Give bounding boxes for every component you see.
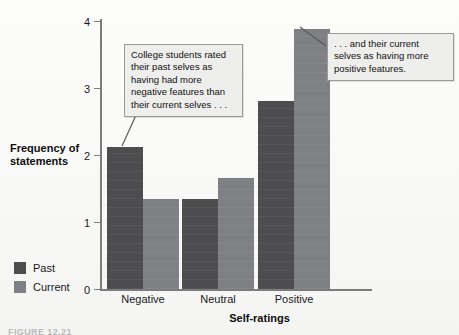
- y-tick-0: 0: [94, 289, 101, 290]
- y-tick-label-0: 0: [84, 284, 90, 296]
- y-tick-label-1: 1: [84, 217, 90, 229]
- y-tick-label-3: 3: [84, 83, 90, 95]
- bar-negative-past: [107, 147, 143, 289]
- x-axis-title: Self-ratings: [0, 312, 459, 324]
- bar-neutral-past: [182, 199, 218, 289]
- y-tick-1: 1: [94, 222, 101, 223]
- x-category-label-positive: Positive: [246, 293, 342, 305]
- bar-positive-current: [294, 29, 330, 289]
- bar-neutral-current: [218, 178, 254, 289]
- y-axis-title: Frequency of statements: [10, 142, 96, 168]
- y-axis-title-line-2: statements: [10, 155, 96, 168]
- legend-item-past: Past: [14, 258, 70, 277]
- y-tick-3: 3: [94, 88, 101, 89]
- callout-past-selves: College students rated their past selves…: [124, 44, 243, 117]
- legend-swatch-current: [14, 281, 26, 293]
- y-tick-4: 4: [94, 21, 101, 22]
- x-axis-line: [100, 289, 372, 291]
- legend-swatch-past: [14, 262, 26, 274]
- figure-caption-remnant: FIGURE 12.21: [8, 327, 72, 335]
- bar-negative-current: [143, 199, 179, 289]
- legend-item-current: Current: [14, 277, 70, 296]
- legend-label-current: Current: [33, 281, 70, 293]
- bar-positive-past: [258, 101, 294, 289]
- legend: PastCurrent: [14, 258, 70, 296]
- legend-label-past: Past: [33, 262, 55, 274]
- callout-current-selves: . . . and their current selves as having…: [327, 33, 454, 81]
- y-tick-label-4: 4: [84, 16, 90, 28]
- figure-bar-chart: 01234 Frequency of statements NegativeNe…: [0, 0, 459, 335]
- y-axis-title-line-1: Frequency of: [10, 142, 96, 155]
